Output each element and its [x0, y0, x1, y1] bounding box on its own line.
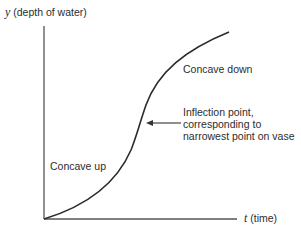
inflection-line-3: narrowest point on vase: [183, 130, 294, 142]
x-axis-title: t (time): [244, 212, 277, 224]
inflection-line-1: Inflection point,: [183, 106, 294, 118]
y-variable: y: [5, 5, 10, 19]
inflection-label: Inflection point, corresponding to narro…: [183, 106, 294, 142]
diagram-canvas: y (depth of water) Concave down Inflecti…: [0, 0, 301, 229]
x-axis-label: (time): [250, 212, 277, 224]
concave-up-label: Concave up: [50, 160, 106, 172]
y-axis-label: (depth of water): [13, 6, 87, 18]
y-axis-title: y (depth of water): [5, 6, 87, 18]
inflection-line-2: corresponding to: [183, 118, 294, 130]
concave-down-label: Concave down: [183, 63, 252, 75]
x-variable: t: [244, 211, 247, 225]
arrow-head-icon: [146, 120, 153, 126]
